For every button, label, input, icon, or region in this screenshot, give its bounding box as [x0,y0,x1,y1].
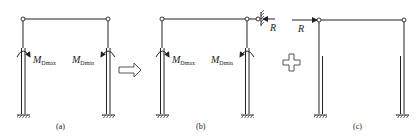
fixed-support-icon [241,115,254,118]
fixed-support-icon [156,115,169,118]
caption-a: (a) [56,122,65,131]
horizontal-restraint-icon [261,10,264,26]
moment-label-min: MDmin [210,54,233,66]
panel-c: R (c) [292,18,409,131]
hinge-icon [317,18,321,22]
moment-arrow-icon [101,51,115,57]
force-label: R [297,23,304,34]
plus-icon [283,54,300,71]
hinge-icon [21,17,25,21]
moment-arrow-icon [240,51,254,57]
moment-label-min: MDmin [71,54,94,66]
hinge-icon [106,17,110,21]
caption-c: (c) [353,122,362,131]
fixed-support-icon [102,115,115,118]
moment-label-max: MDmax [32,54,56,66]
reaction-label: R [269,22,276,33]
bent-frame-superposition-diagram: MDmax MDmin (a) R [0,0,419,140]
hinge-icon [256,17,260,21]
panel-b: R MDmax MDmin (b) [156,10,276,131]
moment-arrow-icon [17,51,30,57]
fixed-support-icon [314,115,327,118]
hinge-icon [402,18,406,22]
moment-label-max: MDmax [171,54,195,66]
hinge-icon [245,17,249,21]
moment-arrow-icon [156,51,169,57]
fixed-support-icon [396,115,409,118]
panel-a: MDmax MDmin (a) [17,17,115,131]
transform-arrow-icon [119,63,141,77]
fixed-support-icon [17,115,30,118]
hinge-icon [160,17,164,21]
caption-b: (b) [196,122,206,131]
